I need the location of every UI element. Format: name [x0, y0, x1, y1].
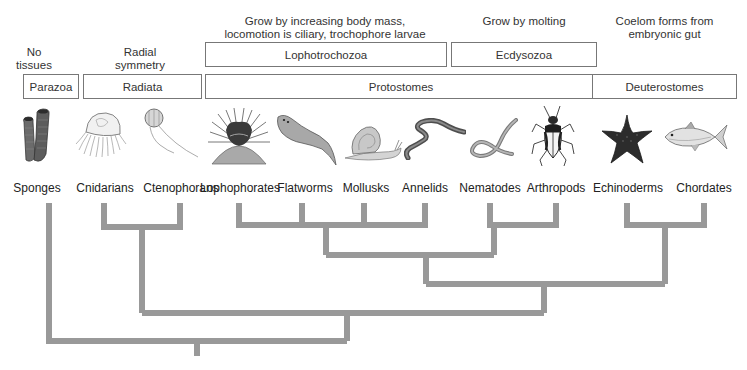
- branch-lophotrochozoa: [239, 203, 425, 225]
- branch-radiata: [104, 203, 180, 227]
- branch-deuterostomes: [627, 203, 704, 225]
- phylogenetic-tree: [0, 0, 747, 370]
- branch-ecdysozoa: [490, 203, 556, 225]
